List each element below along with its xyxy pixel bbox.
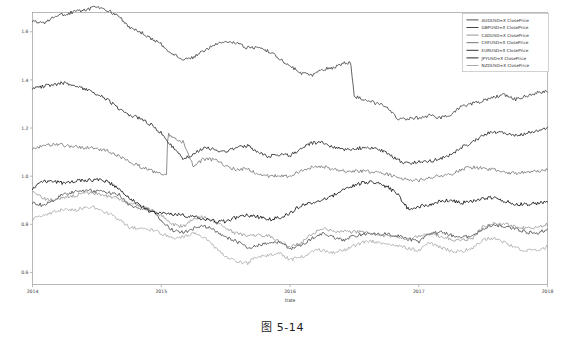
- y-tick-label: 1.4: [21, 78, 28, 83]
- y-tick-label: 1.2: [21, 126, 28, 131]
- legend-label[interactable]: EURUSD=X ClosePrice: [482, 48, 529, 53]
- x-tick-label: 2016: [284, 289, 296, 294]
- y-tick-label: 1.0: [21, 174, 28, 179]
- legend-label[interactable]: AUDUSD=X ClosePrice: [482, 18, 530, 23]
- y-tick-label: 0.8: [21, 222, 28, 227]
- figure-container: 0.60.81.01.21.41.6 20142015201620172018 …: [0, 0, 565, 347]
- x-tick-label: 2017: [413, 289, 425, 294]
- legend-label[interactable]: CADUSD=X ClosePrice: [482, 33, 530, 38]
- figure-caption: 图 5-14: [0, 318, 565, 334]
- x-tick-label: 2018: [542, 289, 554, 294]
- x-tick-label: 2014: [27, 289, 39, 294]
- y-tick-label: 1.6: [21, 29, 28, 34]
- x-axis-title: Date: [285, 298, 296, 303]
- legend-label[interactable]: JPYUSD=X ClosePrice: [481, 56, 527, 61]
- legend-label[interactable]: NZDUSD=X ClosePrice: [482, 63, 530, 68]
- line-chart: 0.60.81.01.21.41.6 20142015201620172018 …: [0, 0, 565, 310]
- chart-legend[interactable]: AUDUSD=X ClosePriceGBPUSD=X ClosePriceCA…: [463, 14, 549, 72]
- legend-label[interactable]: GBPUSD=X ClosePrice: [482, 25, 529, 30]
- x-tick-label: 2015: [155, 289, 167, 294]
- y-tick-label: 0.6: [21, 270, 28, 275]
- legend-label[interactable]: CHFUSD=X ClosePrice: [482, 40, 529, 45]
